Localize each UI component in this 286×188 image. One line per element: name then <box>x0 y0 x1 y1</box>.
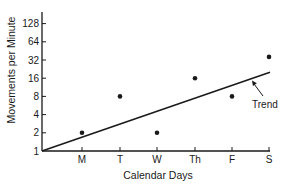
y-tick-label: 32 <box>28 55 40 66</box>
data-point <box>118 94 123 99</box>
trend-label: Trend <box>252 99 278 110</box>
data-points <box>80 55 272 135</box>
y-tick-label: 1 <box>33 146 39 157</box>
x-tick-label: W <box>152 154 162 165</box>
trend-line-group <box>42 72 270 151</box>
y-axis-title: Movements per Minute <box>5 16 17 123</box>
trend-annotation: Trend <box>252 81 278 110</box>
y-tick-label: 16 <box>28 73 40 84</box>
x-axis: MTWThFS <box>42 147 273 165</box>
y-tick-label: 64 <box>28 36 40 47</box>
x-axis-title: Calendar Days <box>123 169 192 181</box>
y-tick-label: 2 <box>33 127 39 138</box>
y-tick-label: 8 <box>33 91 39 102</box>
trend-line <box>42 72 270 151</box>
x-tick-label: F <box>229 154 235 165</box>
y-tick-label: 128 <box>22 18 39 29</box>
y-tick-label: 4 <box>33 109 39 120</box>
data-point <box>80 131 85 136</box>
data-point <box>267 55 272 60</box>
x-tick-label: M <box>78 154 86 165</box>
data-point <box>193 76 198 81</box>
y-axis: 1248163264128 <box>22 12 46 157</box>
data-point <box>230 94 235 99</box>
x-tick-label: S <box>266 154 273 165</box>
x-tick-label: T <box>117 154 123 165</box>
x-tick-label: Th <box>189 154 201 165</box>
chart: 1248163264128 MTWThFS Trend Calendar Day… <box>0 0 286 188</box>
data-point <box>155 131 160 136</box>
